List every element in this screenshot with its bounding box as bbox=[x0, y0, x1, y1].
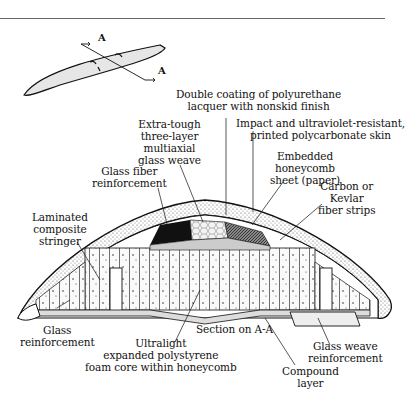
label-foam-core: Ultralight expanded polystyrene foam cor… bbox=[85, 337, 237, 373]
label-impact-skin: Impact and ultraviolet-resistant, printe… bbox=[236, 117, 405, 141]
label-glass-reinforcement: Glass reinforcement bbox=[20, 324, 95, 348]
board-plan-view bbox=[24, 42, 165, 95]
label-compound-layer: Compound layer bbox=[282, 365, 339, 389]
label-double-coating: Double coating of polyurethane lacquer w… bbox=[176, 88, 341, 112]
section-marker-a-bottom: A bbox=[158, 65, 166, 76]
label-composite-stringer: Laminated composite stringer bbox=[32, 211, 88, 247]
section-marker-a-top: A bbox=[98, 32, 106, 43]
label-glass-fiber-reinforcement: Glass fiber reinforcement bbox=[92, 165, 167, 189]
label-multiaxial-weave: Extra-tough three-layer multiaxial glass… bbox=[138, 118, 201, 166]
caption-section-a-a: Section on A-A bbox=[196, 323, 273, 335]
label-glass-weave-reinforcement: Glass weave reinforcement bbox=[308, 340, 383, 364]
label-carbon-kevlar: Carbon or Kevlar fiber strips bbox=[318, 180, 375, 216]
